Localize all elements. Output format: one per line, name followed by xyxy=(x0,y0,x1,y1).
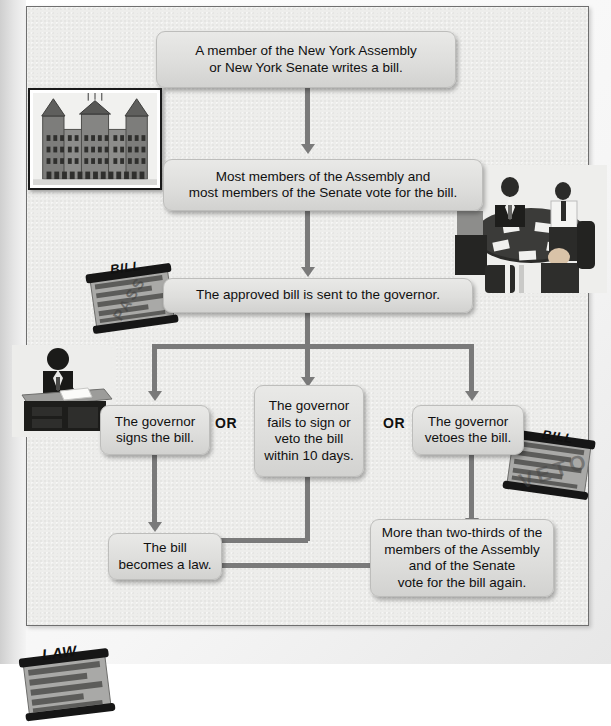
flow-node-governor-no-action[interactable]: The governor fails to sign or veto the b… xyxy=(254,385,364,477)
flow-node-override-vote-text: More than two-thirds of the members of t… xyxy=(382,525,543,591)
flow-node-sent-to-governor-text: The approved bill is sent to the governo… xyxy=(196,287,440,304)
flow-node-governor-vetoes[interactable]: The governor vetoes the bill. xyxy=(412,405,524,455)
connector-split-right xyxy=(469,344,474,392)
connector-split-left xyxy=(152,344,157,392)
or-label-left: OR xyxy=(215,415,237,431)
flow-node-sent-to-governor[interactable]: The approved bill is sent to the governo… xyxy=(163,278,473,313)
connector-n2-n3 xyxy=(305,211,310,268)
flow-node-legislature-vote[interactable]: Most members of the Assembly and most me… xyxy=(163,159,483,211)
arrowhead-split-right xyxy=(465,391,479,401)
flow-node-bill-written-text: A member of the New York Assembly or New… xyxy=(195,43,416,76)
page-left-edge xyxy=(0,0,26,664)
connector-n1-n2 xyxy=(305,88,310,145)
connector-n3-split xyxy=(305,313,310,346)
arrowhead-split-left xyxy=(148,391,162,401)
flow-node-governor-signs-text: The governor signs the bill. xyxy=(115,414,195,447)
flow-node-governor-vetoes-text: The governor vetoes the bill. xyxy=(425,414,511,447)
or-label-right: OR xyxy=(383,415,405,431)
law-scroll: LAW xyxy=(14,642,124,724)
flow-node-override-vote[interactable]: More than two-thirds of the members of t… xyxy=(370,519,554,597)
flow-node-governor-signs[interactable]: The governor signs the bill. xyxy=(100,405,210,455)
capitol-photo-frame xyxy=(28,88,162,190)
flow-node-becomes-law-text: The bill becomes a law. xyxy=(118,540,211,573)
arrowhead-n1-n2 xyxy=(301,144,315,154)
connector-split-center xyxy=(305,344,310,378)
new-york-state-capitol-photo xyxy=(33,93,157,185)
connector-split-bar xyxy=(152,344,474,349)
connector-n6-n7 xyxy=(469,455,474,519)
flow-node-becomes-law[interactable]: The bill becomes a law. xyxy=(108,533,222,580)
capitol-building-icon xyxy=(33,93,157,185)
connector-n4-n8 xyxy=(152,455,157,523)
flow-node-governor-no-action-text: The governor fails to sign or veto the b… xyxy=(264,398,353,464)
flow-node-bill-written[interactable]: A member of the New York Assembly or New… xyxy=(156,31,456,88)
connector-n5-down xyxy=(305,477,310,541)
arrowhead-n2-n3 xyxy=(301,267,315,277)
flow-node-legislature-vote-text: Most members of the Assembly and most me… xyxy=(189,169,458,202)
arrowhead-n4-n8 xyxy=(148,522,162,532)
